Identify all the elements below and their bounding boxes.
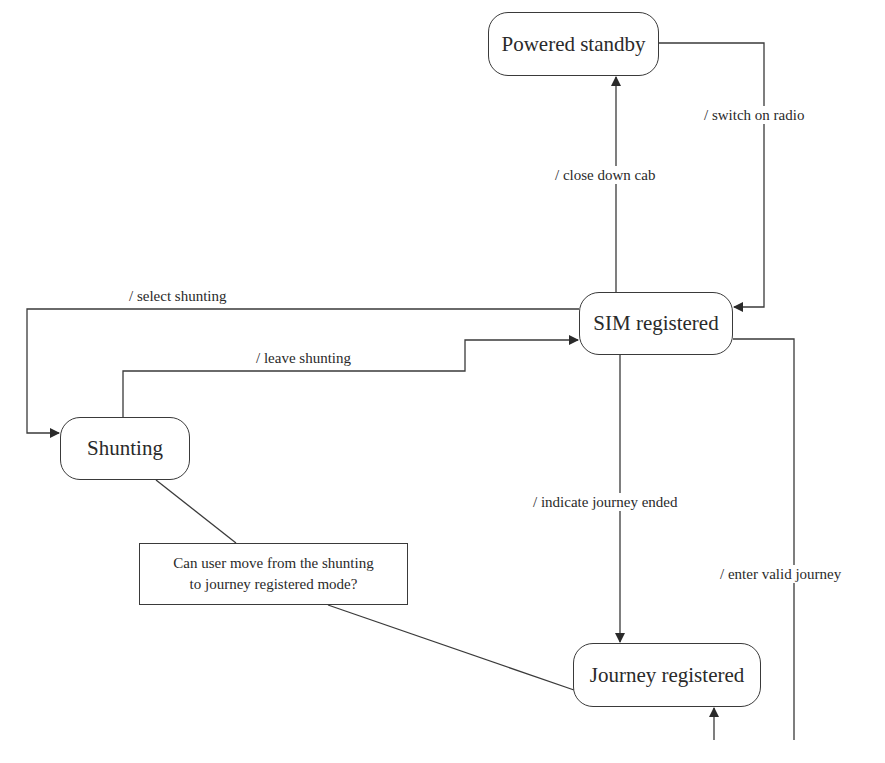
label-indicate-journey-ended: / indicate journey ended bbox=[531, 493, 680, 511]
note-box: Can user move from the shunting to journ… bbox=[139, 543, 408, 605]
state-label: Powered standby bbox=[501, 32, 645, 57]
label-enter-valid-journey: / enter valid journey bbox=[718, 565, 843, 583]
note-connector-journey bbox=[328, 605, 574, 690]
note-line-1: Can user move from the shunting bbox=[173, 553, 373, 574]
state-powered-standby[interactable]: Powered standby bbox=[488, 12, 659, 76]
state-label: Shunting bbox=[87, 436, 163, 461]
label-leave-shunting: / leave shunting bbox=[254, 349, 353, 367]
label-switch-on-radio: / switch on radio bbox=[702, 106, 806, 124]
label-close-down-cab: / close down cab bbox=[553, 166, 657, 184]
note-line-2: to journey registered mode? bbox=[190, 574, 358, 595]
state-sim-registered[interactable]: SIM registered bbox=[579, 292, 733, 355]
state-label: Journey registered bbox=[590, 663, 745, 688]
state-shunting[interactable]: Shunting bbox=[60, 417, 190, 480]
transition-switch-on-radio bbox=[659, 43, 764, 307]
state-label: SIM registered bbox=[593, 311, 718, 336]
label-select-shunting: / select shunting bbox=[127, 287, 229, 305]
state-journey-registered[interactable]: Journey registered bbox=[573, 643, 761, 707]
note-connector-shunting bbox=[156, 480, 236, 543]
